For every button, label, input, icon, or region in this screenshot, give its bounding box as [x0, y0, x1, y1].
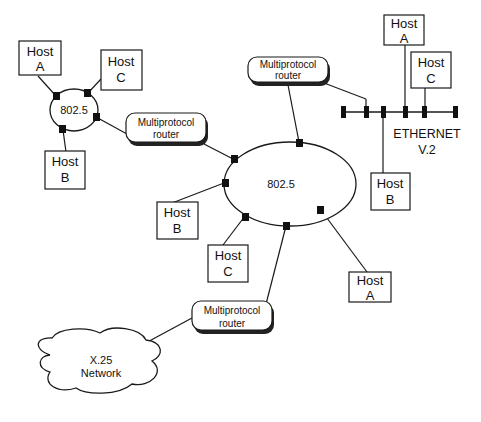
svg-text:X.25: X.25 — [90, 354, 113, 366]
svg-text:Host: Host — [164, 205, 191, 220]
svg-text:Host: Host — [357, 273, 384, 288]
svg-text:B: B — [173, 221, 182, 236]
token-ring-center: 802.5 — [222, 139, 356, 230]
svg-text:C: C — [116, 70, 125, 85]
svg-text:router: router — [219, 318, 246, 329]
host-box-ethernet-b: Host B — [371, 173, 410, 210]
svg-text:C: C — [426, 71, 435, 86]
multiprotocol-router-1: Multiprotocol router — [126, 113, 208, 146]
host-box-left-a: Host A — [19, 41, 61, 75]
svg-text:A: A — [36, 59, 45, 74]
svg-text:Host: Host — [27, 44, 54, 59]
ethernet-version-label: V.2 — [418, 143, 436, 157]
svg-text:Host: Host — [418, 55, 445, 70]
svg-text:Host: Host — [377, 176, 404, 191]
multiprotocol-router-2: Multiprotocol router — [248, 57, 330, 86]
host-box-left-c: Host C — [101, 50, 142, 90]
svg-text:A: A — [366, 288, 375, 303]
host-box-ethernet-c: Host C — [411, 52, 451, 88]
svg-text:router: router — [275, 70, 302, 81]
ring-center-label: 802.5 — [267, 178, 295, 190]
multiprotocol-router-3: Multiprotocol router — [192, 301, 274, 334]
svg-text:Host: Host — [52, 154, 79, 169]
svg-text:Host: Host — [391, 16, 418, 31]
svg-text:Network: Network — [81, 367, 122, 379]
ethernet-label: ETHERNET — [393, 127, 461, 141]
ethernet-bus: ETHERNET V.2 — [341, 106, 461, 157]
svg-text:B: B — [61, 170, 70, 185]
host-box-ethernet-a: Host A — [384, 15, 424, 46]
svg-text:Multiprotocol: Multiprotocol — [260, 59, 317, 70]
host-box-center-b: Host B — [157, 202, 198, 239]
host-box-center-a: Host A — [349, 272, 391, 303]
x25-network-cloud: X.25 Network — [38, 328, 160, 393]
host-box-center-c: Host C — [208, 245, 248, 282]
host-box-left-b: Host B — [45, 151, 85, 189]
svg-text:Multiprotocol: Multiprotocol — [138, 117, 195, 128]
svg-text:C: C — [223, 264, 232, 279]
ring-left-label: 802.5 — [60, 104, 88, 116]
svg-text:Host: Host — [215, 248, 242, 263]
svg-text:A: A — [400, 31, 409, 46]
svg-text:router: router — [153, 129, 180, 140]
svg-text:Host: Host — [108, 54, 135, 69]
token-ring-left: 802.5 — [50, 89, 100, 133]
svg-text:B: B — [386, 192, 395, 207]
svg-text:Multiprotocol: Multiprotocol — [204, 305, 261, 316]
network-diagram: 802.5 Host A Host C Host B Multiprotocol… — [0, 0, 481, 422]
